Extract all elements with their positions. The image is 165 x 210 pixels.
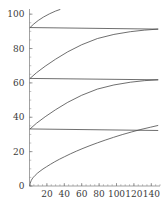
y-tick-label: 80	[13, 44, 25, 54]
x-tick-label: 120	[125, 189, 142, 199]
chart-container: 20406080100120140 020406080100	[0, 0, 165, 210]
y-tick-label: 100	[7, 9, 24, 19]
data-series-group	[30, 10, 158, 186]
x-tick-label: 100	[108, 189, 125, 199]
series-return-2	[30, 78, 158, 79]
series-branch-1	[30, 126, 158, 186]
x-axis-tick-labels: 20406080100120140	[41, 189, 160, 199]
x-tick-label: 140	[143, 189, 160, 199]
series-return-3	[30, 28, 158, 30]
x-tick-label: 60	[76, 189, 88, 199]
x-tick-label: 20	[41, 189, 53, 199]
series-branch-4	[30, 10, 60, 28]
x-tick-label: 40	[59, 189, 71, 199]
series-branch-2	[30, 80, 158, 129]
y-tick-label: 60	[13, 78, 25, 88]
x-tick-label: 80	[93, 189, 105, 199]
series-branch-3	[30, 29, 158, 78]
y-tick-label: 0	[19, 181, 25, 191]
y-tick-label: 40	[13, 112, 25, 122]
major-tick-marks	[30, 14, 152, 186]
y-tick-label: 20	[13, 147, 25, 157]
chart-plot: 20406080100120140 020406080100	[0, 0, 165, 210]
axis-lines	[30, 9, 161, 186]
y-axis-tick-labels: 020406080100	[7, 9, 24, 191]
